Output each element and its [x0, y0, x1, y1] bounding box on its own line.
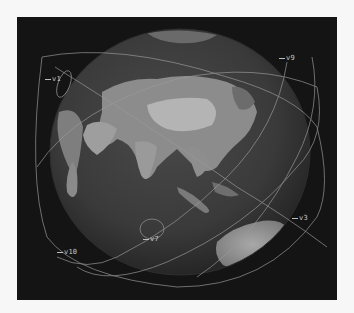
earth-globe [50, 29, 310, 275]
satellite-marker-icon [143, 239, 149, 240]
satellite-label-v3[interactable]: v3 [292, 214, 308, 222]
satellite-label-v9[interactable]: v9 [279, 54, 295, 62]
satellite-label-v7[interactable]: v7 [143, 235, 159, 243]
satellite-label-v10[interactable]: v10 [57, 248, 77, 256]
satellite-label-v1[interactable]: v1 [45, 75, 61, 83]
satellite-marker-icon [292, 218, 298, 219]
globe-viewport[interactable]: v1 v9 v3 v10 v7 [17, 17, 337, 300]
satellite-marker-icon [45, 79, 51, 80]
satellite-marker-icon [279, 58, 285, 59]
satellite-marker-icon [57, 252, 63, 253]
